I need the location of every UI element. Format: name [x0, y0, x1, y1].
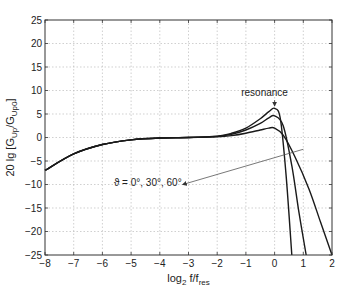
chart: −8−7−6−5−4−3−2−1012−25−20−15−10−50510152…: [0, 0, 346, 293]
y-tick-label: 5: [36, 109, 42, 120]
angle-label: ϑ = 0°, 30°, 60°: [114, 177, 182, 188]
y-tick-label: 15: [31, 62, 43, 73]
y-axis-label: 20 lg [GUp/GUp0]: [4, 98, 19, 176]
x-tick-label: −7: [68, 258, 80, 269]
x-tick-label: −4: [154, 258, 166, 269]
y-tick-label: −15: [25, 203, 42, 214]
y-tick-label: −10: [25, 179, 42, 190]
x-tick-label: 0: [272, 258, 278, 269]
x-tick-label: −1: [240, 258, 252, 269]
y-tick-label: 0: [36, 132, 42, 143]
x-tick-label: −6: [97, 258, 109, 269]
y-tick-label: 10: [31, 85, 43, 96]
x-tick-label: −2: [211, 258, 223, 269]
x-tick-label: 1: [301, 258, 307, 269]
resonance-label: resonance: [241, 87, 288, 98]
y-tick-label: 20: [31, 38, 43, 49]
y-tick-label: 25: [31, 15, 43, 26]
y-tick-label: −25: [25, 250, 42, 261]
y-tick-label: −5: [31, 156, 43, 167]
x-tick-label: −3: [183, 258, 195, 269]
x-axis-label: log2 f/fres: [167, 272, 210, 287]
x-tick-label: 2: [329, 258, 335, 269]
y-tick-label: −20: [25, 226, 42, 237]
axis-ticks: −8−7−6−5−4−3−2−1012−25−20−15−10−50510152…: [25, 15, 335, 270]
x-tick-label: −5: [125, 258, 137, 269]
